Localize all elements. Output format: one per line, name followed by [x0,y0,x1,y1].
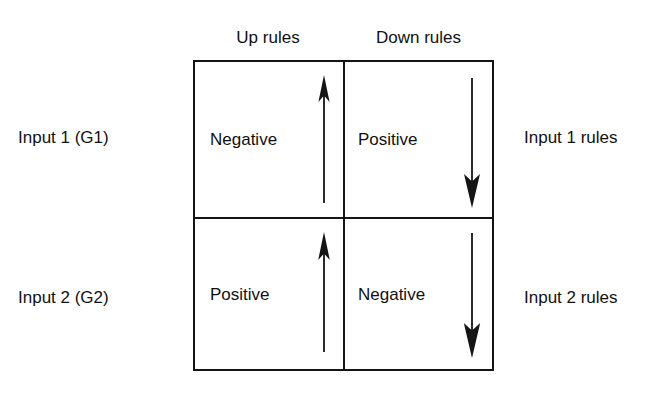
arrow-up-icon [318,232,330,352]
row-label-input-1-rules: Input 1 rules [524,128,618,148]
matrix-horizontal-divider [195,217,492,219]
row-label-input-1-g1: Input 1 (G1) [18,128,109,148]
matrix-vertical-divider [343,62,345,369]
matrix-box: Negative Positive Positive Negative [193,60,494,371]
arrow-up-icon [318,75,329,203]
cell-label-row1-col2: Positive [358,130,418,150]
column-header-down-rules: Down rules [343,28,494,48]
cell-label-row2-col1: Positive [210,285,270,305]
diagram-canvas: Up rules Down rules Input 1 (G1) Input 2… [0,0,668,394]
column-header-up-rules: Up rules [193,28,343,48]
arrow-down-icon [464,78,480,208]
cell-label-row1-col1: Negative [210,130,277,150]
row-label-input-2-rules: Input 2 rules [524,288,618,308]
arrow-down-icon [464,233,480,358]
row-label-input-2-g2: Input 2 (G2) [18,288,109,308]
cell-label-row2-col2: Negative [358,285,425,305]
